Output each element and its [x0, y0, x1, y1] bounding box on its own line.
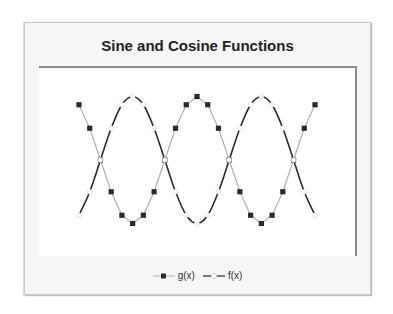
g-marker — [130, 221, 135, 226]
g-marker — [173, 126, 178, 131]
f-marker — [184, 213, 189, 218]
g-marker — [184, 102, 189, 107]
g-marker — [259, 221, 264, 226]
series-g — [76, 94, 317, 226]
g-marker — [119, 213, 124, 218]
series-f — [77, 94, 318, 226]
g-marker — [269, 213, 274, 218]
f-marker — [98, 158, 103, 163]
f-marker — [120, 102, 125, 107]
g-marker — [205, 102, 210, 107]
g-marker — [237, 189, 242, 194]
g-marker — [248, 213, 253, 218]
g-marker — [312, 102, 317, 107]
g-marker — [141, 213, 146, 218]
f-marker — [259, 94, 264, 99]
g-marker — [280, 189, 285, 194]
g-marker — [216, 126, 221, 131]
f-marker — [195, 221, 200, 226]
f-marker — [130, 94, 135, 99]
g-marker — [151, 189, 156, 194]
g-marker — [194, 94, 199, 99]
f-marker — [238, 126, 243, 131]
f-marker — [302, 189, 307, 194]
f-marker — [87, 189, 92, 194]
g-marker — [109, 189, 114, 194]
f-marker — [77, 213, 82, 218]
chart-lines — [0, 0, 393, 314]
f-marker — [270, 102, 275, 107]
f-marker — [109, 126, 114, 131]
f-marker — [248, 102, 253, 107]
f-marker — [216, 189, 221, 194]
f-marker — [173, 189, 178, 194]
g-marker — [76, 102, 81, 107]
f-marker — [291, 158, 296, 163]
g-marker — [87, 126, 92, 131]
f-marker — [227, 158, 232, 163]
f-marker — [152, 126, 157, 131]
f-marker — [162, 158, 167, 163]
f-marker — [313, 213, 318, 218]
f-marker — [205, 213, 210, 218]
g-marker — [302, 126, 307, 131]
f-marker — [280, 126, 285, 131]
f-marker — [141, 102, 146, 107]
